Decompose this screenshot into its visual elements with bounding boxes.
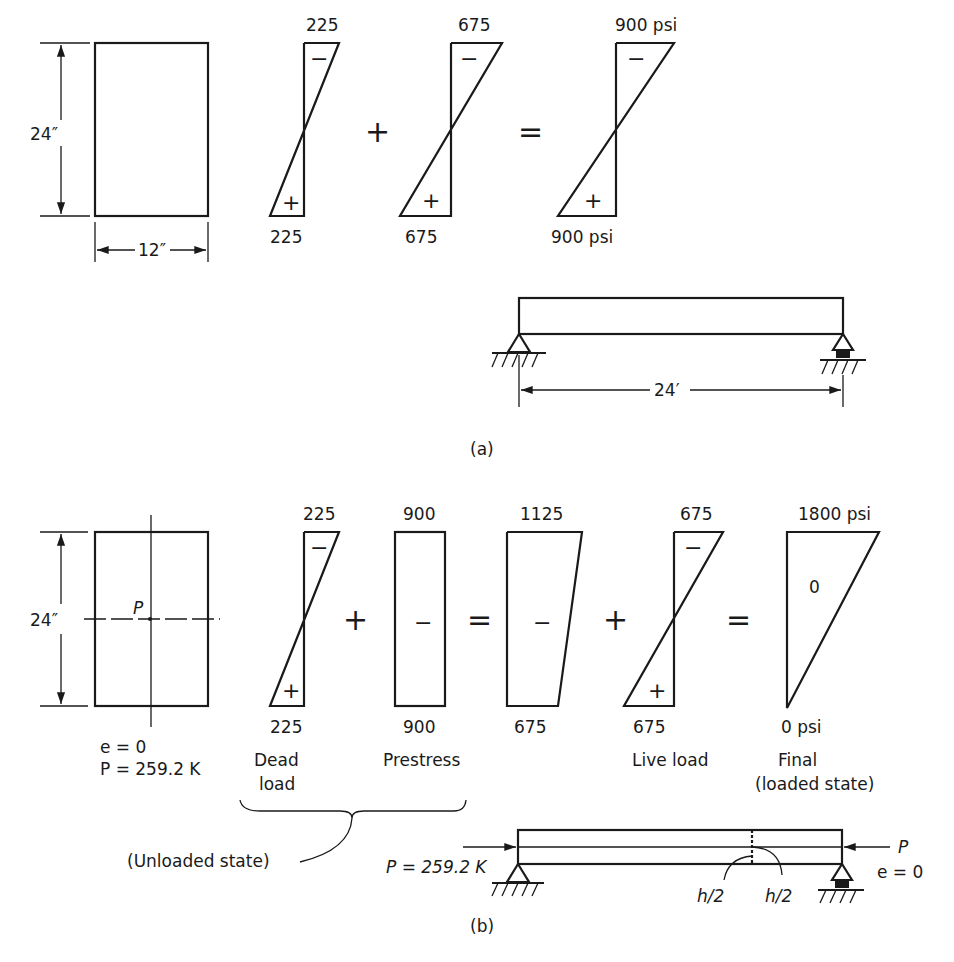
svg-text:1800 psi: 1800 psi [798,504,871,524]
roller-support-icon [833,334,853,350]
pin-support-icon [507,864,529,882]
svg-text:225: 225 [270,227,302,247]
half-depth-label-left: h/2 [697,886,724,906]
svg-text:900 psi: 900 psi [615,15,677,35]
plus-operator: + [343,602,368,637]
part-a-label: (a) [470,439,494,459]
plus-operator: + [365,114,390,149]
svg-text:675: 675 [514,717,546,737]
stress-diagram-live-load-b: 675 675 − + Live load [624,504,723,770]
svg-text:−: − [414,610,432,635]
svg-text:Dead: Dead [254,750,299,770]
eccentricity-label-right: e = 0 [877,862,923,882]
prestressed-beam-b: h/2 h/2 P = 259.2 K P e = 0 [386,830,923,906]
stress-diagram-dead-load-b: 225 225 − + Dead load [254,504,339,794]
svg-text:−: − [310,535,328,560]
equals-operator: = [467,602,492,637]
svg-text:0 psi: 0 psi [781,717,822,737]
svg-text:−: − [460,46,478,71]
svg-text:+: + [282,678,300,703]
svg-text:Final: Final [778,750,817,770]
svg-text:225: 225 [306,15,338,35]
svg-text:225: 225 [303,504,335,524]
stress-diagram-dead-load-a: 225 225 − + [270,15,339,247]
stress-diagram-live-load-a: 675 675 − + [400,15,502,247]
svg-text:(loaded state): (loaded state) [755,774,874,794]
svg-text:+: + [648,678,666,703]
svg-text:1125: 1125 [520,504,563,524]
svg-text:Live load: Live load [632,750,708,770]
height-dimension-label: 24″ [30,124,58,144]
svg-text:P: P [133,598,144,618]
svg-text:225: 225 [270,717,302,737]
plus-operator-2: + [603,602,628,637]
part-a: 24″ 12″ 225 225 − + + 675 675 − + = [30,15,866,459]
svg-text:+: + [282,190,300,215]
equals-operator-2: = [726,602,751,637]
equals-operator: = [518,114,543,149]
roller-support-icon [832,864,852,880]
part-b-label: (b) [470,916,494,936]
stress-diagram-unloaded-b: 1125 675 − [507,504,582,737]
svg-text:900: 900 [403,504,435,524]
svg-text:−: − [627,46,645,71]
cross-section-b: P 24″ e = 0 P = 259.2 K [30,515,220,779]
force-label-right: P [898,837,909,857]
cross-section-a: 24″ 12″ [30,43,208,262]
svg-text:+: + [422,188,440,213]
svg-text:load: load [259,774,295,794]
svg-text:−: − [533,610,551,635]
svg-text:675: 675 [405,227,437,247]
part-b: P 24″ e = 0 P = 259.2 K 225 225 − + Dead… [30,504,923,936]
half-depth-label-right: h/2 [765,886,792,906]
svg-text:+: + [584,188,602,213]
svg-text:675: 675 [458,15,490,35]
simply-supported-beam-a: 24′ [492,298,866,407]
width-dimension-label: 12″ [138,240,166,260]
svg-text:−: − [684,535,702,560]
force-label-left: P = 259.2 K [386,857,488,877]
svg-text:0: 0 [809,577,820,597]
stress-diagram-prestress-b: 900 900 − Prestress [383,504,460,770]
svg-text:Prestress: Prestress [383,750,460,770]
svg-text:675: 675 [633,717,665,737]
pin-support-icon [508,334,530,352]
svg-text:675: 675 [680,504,712,524]
height-dimension-label-b: 24″ [30,610,58,630]
unloaded-state-label: (Unloaded state) [127,851,270,871]
prestress-force-label: P = 259.2 K [100,759,201,779]
stress-diagram-final-b: 1800 psi 0 psi 0 Final (loaded state) [755,504,879,794]
stress-diagram-total-a: 900 psi 900 psi − + [551,15,677,247]
svg-text:900 psi: 900 psi [551,227,613,247]
eccentricity-label: e = 0 [100,737,146,757]
svg-text:−: − [310,46,328,71]
hatched-section [95,43,208,216]
svg-text:900: 900 [403,717,435,737]
prestressed-beam-stress-figure: 24″ 12″ 225 225 − + + 675 675 − + = [0,0,954,962]
span-dimension-label: 24′ [654,380,680,400]
prestress-force-point [148,617,152,621]
